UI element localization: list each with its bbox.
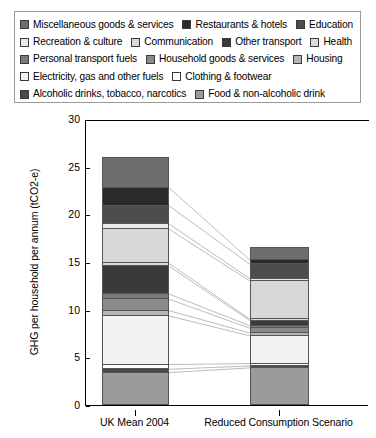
legend-item[interactable]: Restaurants & hotels [182, 20, 287, 30]
legend-item[interactable]: Clothing & footwear [172, 72, 271, 82]
legend-row: Alcoholic drinks, tobacco, narcoticsFood… [20, 86, 355, 103]
legend-item-label: Electricity, gas and other fuels [33, 72, 163, 82]
bar-segment[interactable] [102, 310, 169, 315]
legend-item-label: Other transport [235, 37, 301, 47]
bar-segment[interactable] [102, 372, 169, 405]
bar-segment[interactable] [102, 262, 169, 265]
bar-segment[interactable] [250, 332, 309, 335]
bar-segment[interactable] [102, 298, 169, 309]
y-axis-tick-mark [86, 358, 90, 359]
connector-line [169, 311, 250, 333]
bar-segment[interactable] [250, 247, 309, 259]
y-axis-tick-label: 10 [68, 304, 80, 316]
legend-row: Electricity, gas and other fuelsClothing… [20, 68, 355, 85]
bar-segment[interactable] [102, 187, 169, 205]
plot-area: 051015202530 [85, 120, 368, 406]
bar-segment[interactable] [250, 278, 309, 280]
y-axis-tick-label: 0 [74, 399, 80, 411]
bar-segment[interactable] [250, 335, 309, 363]
legend-item-label: Household goods & services [159, 54, 284, 64]
legend-item-label: Communication [144, 37, 213, 47]
legend-swatch-icon [20, 72, 29, 81]
legend-row: Recreation & cultureCommunicationOther t… [20, 33, 355, 50]
bar-segment[interactable] [102, 315, 169, 364]
legend-item[interactable]: Education [296, 20, 353, 30]
connector-line [169, 299, 250, 328]
x-axis-tick-label: Reduced Consumption Scenario [204, 416, 352, 428]
y-axis-tick-mark [86, 311, 90, 312]
connector-line [169, 266, 250, 320]
bar-segment[interactable] [250, 320, 309, 325]
y-axis-tick-mark [86, 168, 90, 169]
bar-segment[interactable] [102, 223, 169, 228]
legend-item[interactable]: Alcoholic drinks, tobacco, narcotics [20, 89, 186, 99]
stacked-bar-reduced-consumption-scenario[interactable] [250, 247, 309, 405]
legend-item[interactable]: Electricity, gas and other fuels [20, 72, 163, 82]
legend-item[interactable]: Recreation & culture [20, 37, 122, 47]
legend-item[interactable]: Communication [131, 37, 213, 47]
legend-item-label: Education [309, 20, 353, 30]
connector-line [169, 368, 250, 373]
bar-segment[interactable] [250, 325, 309, 327]
bar-segment[interactable] [250, 367, 309, 405]
x-axis-tick-label: UK Mean 2004 [100, 416, 169, 428]
legend-item-label: Recreation & culture [33, 37, 122, 47]
bar-segment[interactable] [102, 265, 169, 293]
legend-swatch-icon [195, 90, 204, 99]
y-axis-label: GHG per household per annum (tCO2-e) [28, 142, 40, 382]
y-axis-tick-label: 25 [68, 161, 80, 173]
bar-segment[interactable] [250, 263, 309, 277]
legend-swatch-icon [296, 20, 305, 29]
legend-item-label: Food & non-alcoholic drink [208, 89, 325, 99]
connector-line [169, 188, 250, 260]
legend-swatch-icon [131, 38, 140, 47]
legend-swatch-icon [182, 20, 191, 29]
bar-segment[interactable] [250, 259, 309, 263]
chart-area: GHG per household per annum (tCO2-e) 051… [0, 106, 376, 438]
y-axis-tick-label: 15 [68, 256, 80, 268]
connector-line [169, 263, 250, 319]
legend-swatch-icon [20, 20, 29, 29]
bar-segment[interactable] [102, 205, 169, 223]
y-axis-tick-label: 20 [68, 208, 80, 220]
legend-item[interactable]: Other transport [222, 37, 301, 47]
legend-item[interactable]: Housing [293, 54, 342, 64]
bar-segment[interactable] [250, 318, 309, 319]
bar-segment[interactable] [250, 365, 309, 367]
bar-segment[interactable] [102, 293, 169, 298]
chart-legend: Miscellaneous goods & servicesRestaurant… [14, 11, 361, 103]
legend-item[interactable]: Household goods & services [146, 54, 284, 64]
y-axis-tick-mark [86, 406, 90, 407]
y-axis-tick-mark [86, 263, 90, 264]
bar-segment[interactable] [250, 280, 309, 318]
legend-item-label: Miscellaneous goods & services [33, 20, 173, 30]
legend-row: Personal transport fuelsHousehold goods … [20, 51, 355, 68]
stacked-bar-uk-mean-2004[interactable] [102, 157, 169, 405]
legend-item-label: Restaurants & hotels [195, 20, 287, 30]
legend-item[interactable]: Food & non-alcoholic drink [195, 89, 325, 99]
connector-line [169, 294, 250, 326]
connector-line [169, 229, 250, 281]
bar-segment[interactable] [102, 368, 169, 371]
legend-swatch-icon [293, 55, 302, 64]
legend-row: Miscellaneous goods & servicesRestaurant… [20, 16, 355, 33]
legend-item-label: Housing [306, 54, 342, 64]
legend-item-label: Personal transport fuels [33, 54, 137, 64]
legend-swatch-icon [146, 55, 155, 64]
y-axis-tick-label: 5 [74, 351, 80, 363]
legend-swatch-icon [20, 55, 29, 64]
bar-segment[interactable] [102, 228, 169, 262]
connector-line [169, 364, 250, 365]
legend-swatch-icon [222, 38, 231, 47]
legend-item[interactable]: Health [310, 37, 352, 47]
bar-segment[interactable] [102, 364, 169, 369]
connector-line [169, 366, 250, 369]
legend-item[interactable]: Miscellaneous goods & services [20, 20, 173, 30]
bar-segment[interactable] [102, 157, 169, 187]
legend-swatch-icon [172, 72, 181, 81]
bar-segment[interactable] [250, 363, 309, 365]
chart-page: Miscellaneous goods & servicesRestaurant… [0, 0, 376, 438]
legend-item[interactable]: Personal transport fuels [20, 54, 137, 64]
bar-segment[interactable] [250, 327, 309, 332]
connector-line [169, 206, 250, 265]
